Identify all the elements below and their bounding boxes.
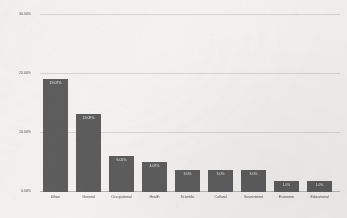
bar-slot-urban: 19.07% [43, 14, 68, 192]
bar-value-label-general: 13.09% [76, 116, 101, 120]
bar-scientific[interactable]: 3.0% [175, 170, 200, 192]
bar-value-label-educational: 1.0% [307, 183, 332, 187]
bar-value-label-government: 3.0% [241, 172, 266, 176]
bar-value-label-urban: 19.07% [43, 81, 68, 85]
x-axis-labels: Urban General Occupational Health Scient… [40, 195, 340, 207]
bar-value-label-occupational: 6.01% [109, 158, 134, 162]
bar-group: 19.07% 13.09% 6.01% 4.07% 3.0% 3.0% [40, 14, 340, 192]
bar-slot-government: 3.0% [241, 14, 266, 192]
bar-urban[interactable]: 19.07% [43, 79, 68, 192]
bar-slot-cultural: 3.0% [208, 14, 233, 192]
bar-value-label-economic: 1.0% [274, 183, 299, 187]
bar-slot-occupational: 6.01% [109, 14, 134, 192]
bar-value-label-health: 4.07% [142, 164, 167, 168]
bar-health[interactable]: 4.07% [142, 162, 167, 192]
bar-slot-educational: 1.0% [307, 14, 332, 192]
bar-slot-general: 13.09% [76, 14, 101, 192]
y-tick-label-10: 10.00% [0, 130, 31, 134]
bar-slot-health: 4.07% [142, 14, 167, 192]
bar-slot-economic: 1.0% [274, 14, 299, 192]
bar-chart: 30.00% 20.00% 10.00% 0.00% 19.07% 13.09%… [0, 0, 347, 218]
bar-occupational[interactable]: 6.01% [109, 156, 134, 192]
y-tick-label-20: 20.00% [0, 71, 31, 75]
bar-value-label-cultural: 3.0% [208, 172, 233, 176]
bar-value-label-scientific: 3.0% [175, 172, 200, 176]
bar-slot-scientific: 3.0% [175, 14, 200, 192]
y-tick-label-0: 0.00% [0, 189, 31, 193]
bar-government[interactable]: 3.0% [241, 170, 266, 192]
bar-general[interactable]: 13.09% [76, 114, 101, 192]
bar-economic[interactable]: 1.0% [274, 181, 299, 192]
bar-educational[interactable]: 1.0% [307, 181, 332, 192]
y-tick-label-30: 30.00% [0, 12, 31, 16]
x-tick-label-educational: Educational [297, 195, 342, 200]
bar-cultural[interactable]: 3.0% [208, 170, 233, 192]
